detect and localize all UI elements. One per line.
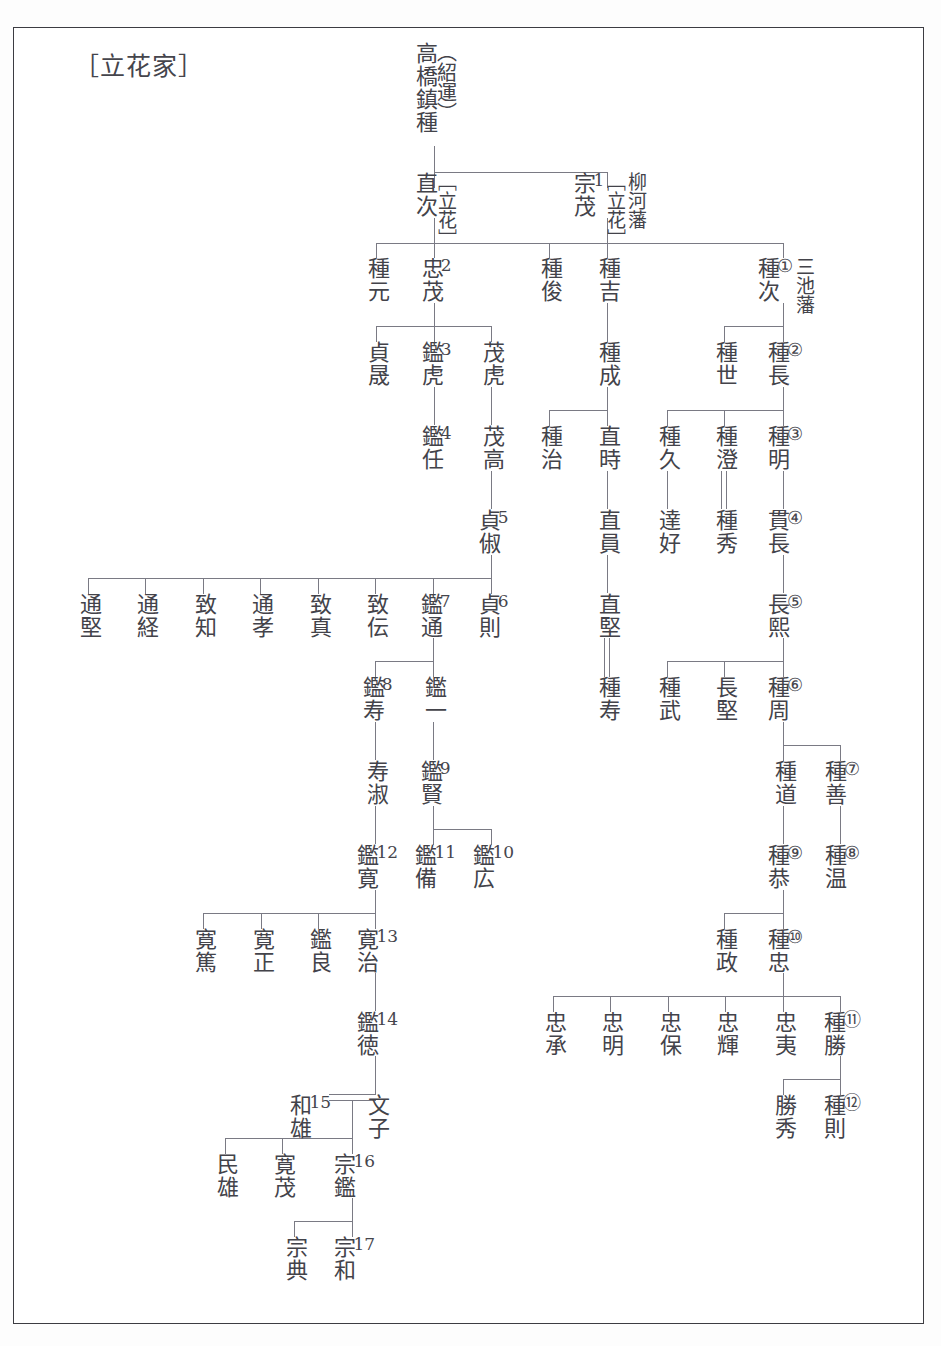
node-taneyoshi2[interactable]: 種善 ⑦	[822, 760, 860, 806]
connector-shigetora-shigetaka	[491, 387, 492, 425]
node-tamio[interactable]: 民雄	[214, 1153, 236, 1199]
connector-shigetaka-sadayoshi	[491, 471, 492, 509]
node-hiroharu[interactable]: 寛治 13	[354, 928, 398, 974]
node-sadayoshi[interactable]: 貞俶 5	[475, 509, 508, 555]
node-naotoki[interactable]: 直時	[596, 425, 618, 471]
node-takahashi-shigetane[interactable]: 高橋鎮種 （紹運）	[412, 42, 456, 134]
node-akitoshi[interactable]: 鑑寿 8	[359, 676, 392, 722]
node-generation-number: 1	[593, 172, 604, 189]
connector-gen7-long-bar	[88, 578, 492, 579]
node-muneshige[interactable]: 宗茂 1 ［立花］ 柳河藩	[571, 172, 645, 248]
node-akimichi[interactable]: 鑑通 7	[417, 593, 450, 639]
node-tanemichi[interactable]: 種道	[772, 760, 794, 806]
node-tanekatsu[interactable]: 種勝 ⑪	[821, 1011, 861, 1057]
node-name: 種久	[656, 425, 678, 471]
node-fumiko[interactable]: 文子	[365, 1094, 387, 1140]
node-akitomo[interactable]: 鑑備 11	[412, 844, 456, 890]
node-sadanori[interactable]: 貞則 6	[475, 593, 508, 639]
node-shigetaka[interactable]: 茂高	[480, 425, 502, 471]
node-tanenori[interactable]: 種則 ⑫	[821, 1094, 861, 1140]
node-munekazu[interactable]: 宗和 17	[331, 1236, 375, 1282]
node-taneyo[interactable]: 種世	[713, 341, 735, 387]
node-naokata[interactable]: 直堅	[596, 593, 618, 639]
node-taneyoshi[interactable]: 種吉	[596, 257, 618, 303]
node-muneyuki[interactable]: 致知	[192, 593, 214, 639]
node-akiyoshi[interactable]: 鑑良	[307, 928, 329, 974]
node-tadayasu[interactable]: 忠保	[657, 1011, 679, 1057]
node-generation-number: 5	[498, 509, 509, 526]
connector-tamio-drop	[225, 1138, 226, 1154]
connector-tanetada-stem	[783, 973, 784, 997]
node-akikazu[interactable]: 鑑一	[422, 676, 444, 722]
node-shigetora[interactable]: 茂虎	[480, 341, 502, 387]
connector-munezane-drop	[318, 578, 319, 594]
node-akitora[interactable]: 鑑虎 3	[418, 341, 451, 387]
node-tanesumi[interactable]: 種澄	[713, 425, 735, 471]
connector-tanemichi-drop	[783, 745, 784, 761]
node-toshiyoshi[interactable]: 寿淑	[364, 760, 386, 806]
node-hiroatsu[interactable]: 寛篤	[192, 928, 214, 974]
node-name: 鑑虎	[418, 341, 440, 387]
node-tsuranaga[interactable]: 貫長 ④	[765, 509, 803, 555]
node-tadahira[interactable]: 忠夷	[772, 1011, 794, 1057]
node-michikata[interactable]: 通堅	[77, 593, 99, 639]
connector-naotoki-naokazu	[607, 471, 608, 509]
node-name: 鑑備	[412, 844, 434, 890]
node-name: 宗鑑	[331, 1153, 353, 1199]
connector-toshiyoshi-akihiro	[375, 806, 376, 844]
node-tanenaga[interactable]: 種長 ②	[765, 341, 803, 387]
node-naotsugu[interactable]: 直次 ［立花］	[413, 172, 456, 248]
node-michitsune[interactable]: 通経	[134, 593, 156, 639]
node-munenori[interactable]: 宗典	[283, 1236, 305, 1282]
connector-tanenari-stem	[607, 387, 608, 411]
node-tanehisa[interactable]: 種久	[656, 425, 678, 471]
node-akinori[interactable]: 鑑徳 14	[354, 1011, 398, 1057]
node-michitaka[interactable]: 通孝	[249, 593, 271, 639]
node-tanenari[interactable]: 種成	[596, 341, 618, 387]
node-tatsuyoshi[interactable]: 達好	[656, 509, 678, 555]
node-tanehide[interactable]: 種秀	[713, 509, 735, 555]
node-tadashige[interactable]: 忠茂 2	[418, 257, 451, 303]
connector-gen4-right-bar	[724, 326, 784, 327]
node-taneaki[interactable]: 種明 ③	[765, 425, 803, 471]
node-munezane[interactable]: 致真	[307, 593, 329, 639]
node-muneaki[interactable]: 宗鑑 16	[331, 1153, 375, 1199]
node-naokazu[interactable]: 直員	[596, 509, 618, 555]
node-tanetake[interactable]: 種武	[656, 676, 678, 722]
connector-muneaki-stem	[352, 1198, 353, 1222]
node-tanemasa[interactable]: 種政	[713, 928, 735, 974]
node-nagakata[interactable]: 長堅	[713, 676, 735, 722]
node-hiroshige[interactable]: 寛茂	[271, 1153, 293, 1199]
node-kazuo[interactable]: 和雄 15	[287, 1094, 331, 1140]
node-tanemoto[interactable]: 種元	[365, 257, 387, 303]
node-name: 致知	[192, 593, 214, 639]
node-munetsutau[interactable]: 致伝	[364, 593, 386, 639]
node-taneyasu[interactable]: 種恭 ⑨	[765, 844, 803, 890]
connector-hiroharu-akinori	[375, 973, 376, 1011]
connector-akikata-stem	[433, 806, 434, 830]
node-name: 貞俶	[475, 509, 497, 555]
node-taneharu[interactable]: 種治	[538, 425, 560, 471]
node-tanetada[interactable]: 種忠 ⑩	[765, 928, 803, 974]
node-tanetsugu[interactable]: 種次 ① 三池藩	[755, 257, 814, 314]
node-akihiro[interactable]: 鑑寛 12	[354, 844, 398, 890]
node-tadaaki[interactable]: 忠明	[599, 1011, 621, 1057]
node-katsuhide[interactable]: 勝秀	[772, 1094, 794, 1140]
node-tanechika[interactable]: 種周 ⑥	[765, 676, 803, 722]
node-tanehisashi[interactable]: 種寿	[596, 676, 618, 722]
connector-muneyuki-drop	[203, 578, 204, 594]
node-hiromasa[interactable]: 寛正	[250, 928, 272, 974]
node-nagahiro[interactable]: 長熙 ⑤	[765, 593, 803, 639]
connector-naotoki-drop	[607, 410, 608, 426]
node-tadatsugu[interactable]: 忠承	[542, 1011, 564, 1057]
node-sadaakira[interactable]: 貞晟	[365, 341, 387, 387]
node-akitou[interactable]: 鑑任 4	[418, 425, 451, 471]
node-name: 鑑良	[307, 928, 329, 974]
node-generation-number: 15	[309, 1094, 331, 1111]
node-tanetoshi[interactable]: 種俊	[538, 257, 560, 303]
node-akikata[interactable]: 鑑賢 9	[417, 760, 450, 806]
node-surname-tag: ［立花］	[436, 172, 455, 248]
node-akihiro2[interactable]: 鑑広 10	[470, 844, 514, 890]
node-taneatsu[interactable]: 種温 ⑧	[822, 844, 860, 890]
node-tadateru[interactable]: 忠輝	[714, 1011, 736, 1057]
